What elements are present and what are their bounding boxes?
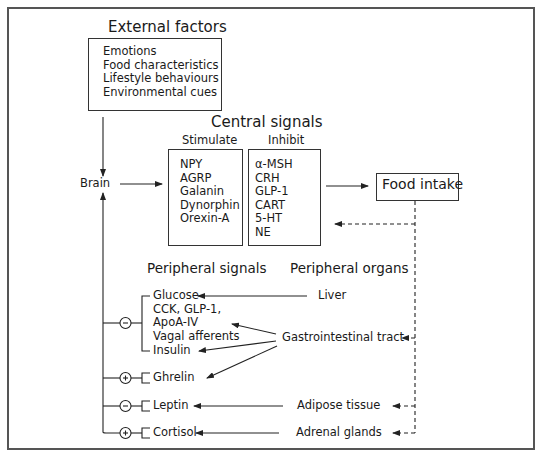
stimulate-label: Stimulate bbox=[182, 134, 237, 148]
peripheral-signals-title: Peripheral signals bbox=[147, 260, 267, 276]
inhibit-item: α-MSH bbox=[255, 158, 293, 172]
peripheral-organ-gi-tract: Gastrointestinal tract bbox=[282, 331, 404, 345]
brain-label: Brain bbox=[80, 177, 110, 191]
peripheral-signal-item: Cortisol bbox=[153, 426, 197, 440]
peripheral-signal-item: Ghrelin bbox=[153, 371, 194, 385]
stimulate-item: Orexin-A bbox=[180, 212, 229, 226]
external-factor-item: Environmental cues bbox=[103, 86, 217, 100]
peripheral-organ-liver: Liver bbox=[318, 289, 346, 303]
external-factors-title: External factors bbox=[108, 18, 227, 36]
peripheral-signal-item: Insulin bbox=[153, 344, 191, 358]
inhibit-item: NE bbox=[255, 226, 271, 240]
external-factor-item: Emotions bbox=[103, 45, 157, 59]
external-factor-item: Lifestyle behaviours bbox=[103, 72, 219, 86]
stimulate-item: Galanin bbox=[180, 185, 224, 199]
inhibit-item: GLP-1 bbox=[255, 185, 288, 199]
peripheral-organ-adipose: Adipose tissue bbox=[297, 399, 380, 413]
peripheral-signal-item: Leptin bbox=[153, 399, 189, 413]
central-signals-title: Central signals bbox=[211, 113, 323, 131]
peripheral-signal-item: ApoA-IV bbox=[153, 316, 198, 330]
peripheral-signal-item: Vagal afferents bbox=[153, 330, 240, 344]
food-intake-label: Food intake bbox=[382, 176, 463, 192]
peripheral-organ-adrenal: Adrenal glands bbox=[296, 426, 382, 440]
inhibit-item: 5-HT bbox=[255, 212, 282, 226]
inhibit-label: Inhibit bbox=[268, 134, 304, 148]
stimulate-item: NPY bbox=[180, 158, 202, 172]
peripheral-organs-title: Peripheral organs bbox=[290, 260, 409, 276]
peripheral-signal-item: Glucose bbox=[153, 289, 199, 303]
